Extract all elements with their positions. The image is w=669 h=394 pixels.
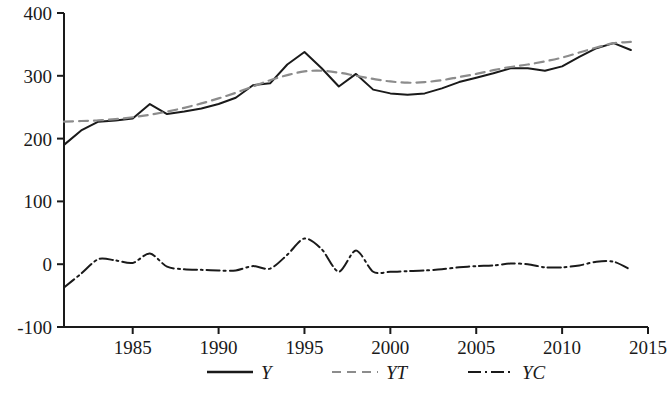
legend-label-yt: YT xyxy=(386,362,409,383)
line-chart: -1000100200300400 1985199019952000200520… xyxy=(0,0,669,394)
x-tick-label: 2010 xyxy=(543,337,581,358)
y-tick-label: 300 xyxy=(24,66,53,87)
x-tick-label: 2015 xyxy=(629,337,667,358)
y-tick-label: 0 xyxy=(43,254,53,275)
legend-label-yc: YC xyxy=(522,362,546,383)
x-tick-label: 1990 xyxy=(200,337,238,358)
x-tick-label: 1985 xyxy=(114,337,152,358)
chart-container: -1000100200300400 1985199019952000200520… xyxy=(0,0,669,394)
x-tick-label: 1995 xyxy=(285,337,323,358)
series-line-yt xyxy=(64,42,631,122)
x-tick-label: 2000 xyxy=(371,337,409,358)
y-tick-label: 200 xyxy=(24,129,53,150)
series-line-y xyxy=(64,43,631,145)
series-line-yc xyxy=(64,238,631,287)
y-tick-labels: -1000100200300400 xyxy=(17,3,52,338)
y-tick-label: 400 xyxy=(24,3,53,24)
x-tick-labels: 1985199019952000200520102015 xyxy=(114,337,667,358)
y-tick-label: 100 xyxy=(24,191,53,212)
legend-label-y: Y xyxy=(261,362,274,383)
axis-lines xyxy=(64,13,648,327)
chart-legend: YYTYC xyxy=(207,362,546,383)
x-tick-marks xyxy=(133,327,648,334)
x-tick-label: 2005 xyxy=(457,337,495,358)
y-tick-label: -100 xyxy=(17,317,52,338)
data-series-layer xyxy=(64,42,631,288)
y-tick-marks xyxy=(57,13,64,327)
